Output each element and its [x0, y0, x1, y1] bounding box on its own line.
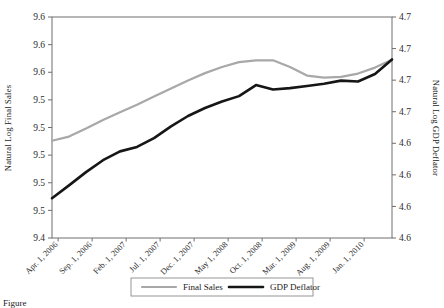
left-axis-title: Natural Log Final Sales: [3, 84, 13, 171]
x-tick-label: Aug. 1, 2009: [294, 240, 331, 277]
right-tick-label: 4.7: [399, 75, 411, 85]
left-axis-title-text: Natural Log Final Sales: [3, 84, 13, 171]
figure-caption: Figure: [3, 298, 27, 308]
right-tick-label: 4.6: [399, 170, 411, 180]
x-tick-label: May 1, 2008: [193, 240, 229, 276]
left-tick-label: 9.4: [33, 233, 45, 243]
right-axis-title-text: Natural Log GDP Deflator: [431, 80, 441, 176]
x-tick-label: Apr. 1, 2006: [24, 240, 60, 276]
figure-caption-text: Figure: [3, 298, 27, 308]
x-tick-label: Feb. 1, 2007: [92, 240, 128, 276]
right-tick-label: 4.7: [399, 107, 411, 117]
left-tick-label: 9.5: [33, 150, 45, 160]
x-tick-label: Mar. 1, 2009: [261, 240, 298, 277]
right-axis-title: Natural Log GDP Deflator: [431, 80, 441, 176]
x-axis: Apr. 1, 2006Sep. 1, 2006Feb. 1, 2007Jul.…: [24, 238, 366, 277]
x-tick-label: Jul. 1, 2007: [128, 240, 162, 274]
series-line-gdp-deflator: [52, 59, 392, 198]
right-tick-label: 4.7: [399, 12, 411, 22]
plot-frame: [52, 17, 392, 238]
right-tick-label: 4.6: [399, 202, 411, 212]
figure-root: 9.69.69.69.59.59.59.59.59.4 4.74.74.74.7…: [0, 0, 444, 308]
left-axis: 9.69.69.69.59.59.59.59.59.4: [33, 12, 52, 243]
x-tick-label: Sep. 1, 2006: [58, 240, 94, 276]
chart-legend: Final Sales GDP Deflator: [131, 278, 320, 296]
left-tick-label: 9.6: [33, 12, 45, 22]
x-tick-label: Dec. 1, 2007: [159, 240, 196, 277]
left-tick-label: 9.5: [33, 95, 45, 105]
x-tick-label: Oct. 1, 2008: [228, 240, 264, 276]
x-tick-label: Jan. 1, 2010: [331, 240, 366, 275]
legend-label-gdp-deflator: GDP Deflator: [270, 282, 320, 292]
series-lines: [52, 59, 392, 198]
left-tick-label: 9.6: [33, 67, 45, 77]
right-tick-label: 4.6: [399, 233, 411, 243]
right-axis: 4.74.74.74.74.64.64.64.6: [392, 12, 411, 243]
right-tick-label: 4.7: [399, 44, 411, 54]
left-tick-label: 9.5: [33, 178, 45, 188]
legend-label-final-sales: Final Sales: [183, 282, 223, 292]
left-tick-label: 9.5: [33, 123, 45, 133]
left-tick-label: 9.5: [33, 206, 45, 216]
left-tick-label: 9.6: [33, 40, 45, 50]
right-tick-label: 4.6: [399, 138, 411, 148]
line-chart: 9.69.69.69.59.59.59.59.59.4 4.74.74.74.7…: [0, 0, 444, 308]
